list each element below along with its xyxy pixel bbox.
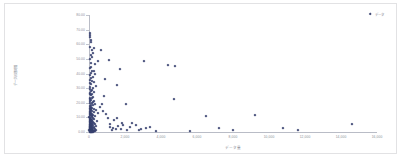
x-axis-tick-label: 8,000 — [229, 135, 238, 139]
data-point — [92, 81, 95, 84]
data-point — [116, 116, 119, 119]
y-axis-tick-label: 20.00 — [51, 101, 85, 105]
x-axis-tick-label: 10,000 — [264, 135, 275, 139]
chart-frame: 0.0010.0020.0030.0040.0050.0060.0070.008… — [4, 3, 397, 154]
data-point — [113, 119, 116, 122]
y-axis-tick-labels: 0.0010.0020.0030.0040.0050.0060.0070.008… — [47, 4, 85, 155]
data-point — [117, 124, 120, 127]
data-point — [149, 126, 152, 129]
data-point — [94, 73, 97, 76]
data-point — [119, 127, 122, 130]
x-axis-tick-label: 16,000 — [372, 135, 383, 139]
data-point — [167, 64, 170, 67]
data-point — [128, 126, 131, 129]
data-point — [102, 95, 105, 98]
y-axis-tick-mark — [86, 15, 89, 16]
y-axis-tick-mark — [86, 44, 89, 45]
data-point — [99, 49, 102, 52]
data-point — [108, 122, 111, 125]
data-point — [100, 103, 103, 106]
data-point — [102, 110, 105, 113]
data-point — [350, 123, 353, 126]
data-point — [96, 112, 99, 115]
x-axis-tick-label: 12,000 — [300, 135, 311, 139]
x-axis-tick-label: 14,000 — [336, 135, 347, 139]
scatter-plot-area: 0.0010.0020.0030.0040.0050.0060.0070.008… — [5, 4, 398, 155]
data-point — [96, 60, 99, 63]
legend-label: データ — [375, 12, 384, 17]
x-axis-tick-label: 0 — [88, 135, 90, 139]
y-axis-tick-label: 0.00 — [51, 130, 85, 134]
x-axis-title: データ量 — [89, 145, 377, 150]
y-axis-tick-label: 30.00 — [51, 86, 85, 90]
chart-legend: データ — [369, 10, 384, 18]
y-axis-tick-label: 10.00 — [51, 115, 85, 119]
data-point — [134, 124, 137, 127]
x-axis-tick-label: 6,000 — [193, 135, 202, 139]
data-point — [94, 85, 97, 88]
data-point — [154, 129, 157, 132]
data-point — [114, 128, 117, 131]
data-point — [105, 112, 108, 115]
y-axis-tick-label: 80.00 — [51, 13, 85, 17]
data-point — [253, 114, 256, 117]
data-point — [174, 65, 177, 68]
data-point — [89, 58, 92, 61]
data-point — [107, 59, 110, 62]
y-axis-tick-label: 50.00 — [51, 57, 85, 61]
data-point — [118, 67, 121, 70]
x-axis-line — [89, 132, 377, 133]
data-point — [93, 63, 96, 66]
data-point — [116, 84, 119, 87]
data-point — [98, 106, 101, 109]
data-point — [107, 117, 110, 120]
data-point — [125, 102, 128, 105]
data-point — [95, 120, 98, 123]
legend-marker-icon — [369, 12, 372, 15]
data-point — [143, 60, 146, 63]
y-axis-tick-label: 40.00 — [51, 72, 85, 76]
data-point — [296, 128, 299, 131]
y-axis-tick-label: 70.00 — [51, 28, 85, 32]
y-axis-title: データ処理時間 — [13, 47, 18, 105]
data-point — [144, 127, 147, 130]
data-point — [93, 90, 96, 93]
data-point — [125, 128, 128, 131]
data-point — [110, 129, 113, 132]
data-point — [104, 77, 107, 80]
data-point — [217, 126, 220, 129]
data-point — [282, 127, 285, 130]
data-point — [205, 114, 208, 117]
y-axis-tick-label: 60.00 — [51, 42, 85, 46]
data-point — [94, 115, 97, 118]
data-point — [188, 129, 191, 132]
data-point — [172, 97, 175, 100]
x-axis-tick-label: 2,000 — [121, 135, 130, 139]
data-point — [131, 122, 134, 125]
y-axis-tick-mark — [86, 30, 89, 31]
x-axis-tick-label: 4,000 — [157, 135, 166, 139]
